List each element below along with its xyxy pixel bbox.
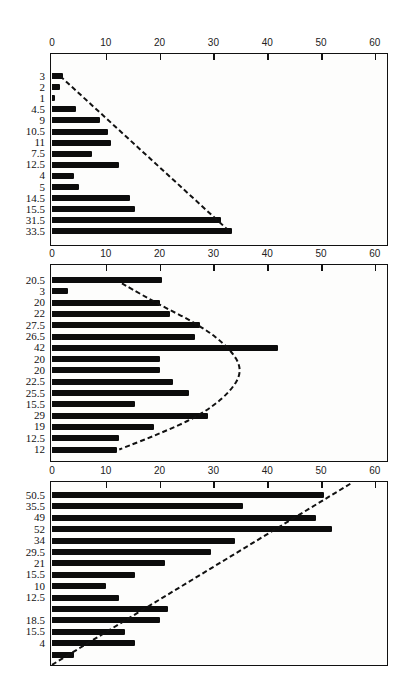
dashed-trend-line (0, 0, 409, 693)
